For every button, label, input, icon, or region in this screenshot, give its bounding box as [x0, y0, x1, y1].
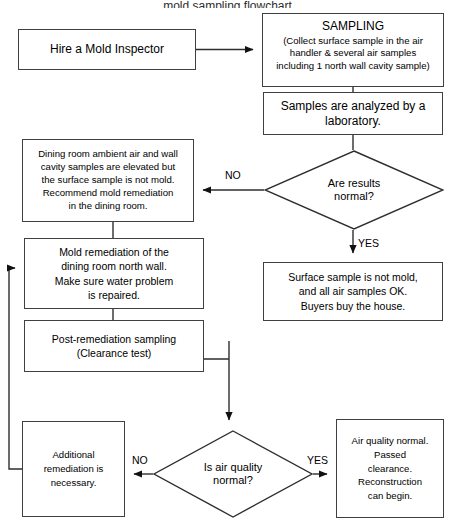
- node-are-results-normal[interactable]: Are results normal?: [264, 150, 444, 230]
- node-additional-remediation-text: Additional remediation is necessary.: [27, 448, 120, 490]
- node-dining-room-finding[interactable]: Dining room ambient air and wall cavity …: [22, 139, 194, 222]
- node-are-results-normal-text: Are results normal?: [264, 150, 444, 230]
- node-dining-room-finding-text: Dining room ambient air and wall cavity …: [27, 148, 189, 213]
- node-clearance-passed[interactable]: Air quality normal. Passed clearance. Re…: [336, 419, 444, 518]
- node-is-air-quality-normal[interactable]: Is air quality normal?: [153, 430, 313, 518]
- node-additional-remediation[interactable]: Additional remediation is necessary.: [22, 421, 125, 517]
- edge-label-results-no: NO: [225, 170, 241, 181]
- node-lab-analysis-text: Samples are analyzed by a laboratory.: [268, 99, 438, 127]
- node-surface-sample-ok-text: Surface sample is not mold, and all air …: [268, 270, 438, 313]
- node-sampling-detail: (Collect surface sample in the air handl…: [267, 35, 439, 72]
- node-post-remediation-sampling[interactable]: Post-remediation sampling (Clearance tes…: [24, 320, 204, 372]
- node-lab-analysis[interactable]: Samples are analyzed by a laboratory.: [263, 92, 443, 135]
- node-mold-remediation-text: Mold remediation of the dining room nort…: [29, 245, 199, 302]
- node-surface-sample-ok[interactable]: Surface sample is not mold, and all air …: [263, 262, 443, 321]
- node-mold-remediation[interactable]: Mold remediation of the dining room nort…: [24, 238, 204, 309]
- node-is-air-quality-normal-text: Is air quality normal?: [153, 430, 313, 518]
- edge-label-air-yes: YES: [307, 455, 328, 466]
- edge-post-to-air-decision: [204, 341, 229, 420]
- flowchart-canvas: mold sampling flowchart: [0, 0, 455, 526]
- node-post-remediation-sampling-text: Post-remediation sampling (Clearance tes…: [29, 332, 199, 360]
- node-sampling-heading: SAMPLING: [267, 19, 439, 33]
- node-hire-mold-inspector-text: Hire a Mold Inspector: [23, 42, 191, 56]
- node-clearance-passed-text: Air quality normal. Passed clearance. Re…: [341, 434, 439, 504]
- edge-label-results-yes: YES: [358, 238, 379, 249]
- clipped-title-fragment: mold sampling flowchart: [0, 0, 455, 8]
- node-sampling[interactable]: SAMPLING (Collect surface sample in the …: [262, 13, 444, 87]
- node-hire-mold-inspector[interactable]: Hire a Mold Inspector: [18, 29, 196, 70]
- edge-label-air-no: NO: [132, 455, 148, 466]
- edge-loop-back-to-mold-remediation: [9, 268, 22, 469]
